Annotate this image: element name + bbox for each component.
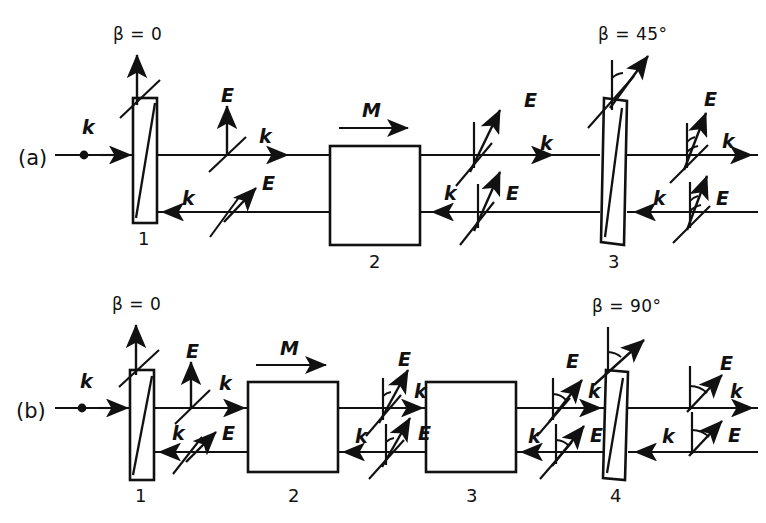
panel-b-M-label: M [280,337,299,359]
panel-b-E-label-2f: E [398,348,411,370]
panel-b-k-label-4f: k [730,380,744,402]
panel-b-E-label-3b: E [590,424,603,446]
panel-a-E-label-3f: E [704,88,717,110]
panel-a-beta-zero-label: β = 0 [113,24,162,44]
panel-b-beta-90-label: β = 90° [592,296,662,316]
panel-a [55,55,758,245]
panel-b-beta-zero-label: β = 0 [112,294,161,314]
panel-b-cluster-1-forward [175,362,210,424]
panel-b-k-label-3b: k [528,425,542,447]
panel-a-label: (a) [18,146,47,170]
panel-a-E-label-3b: E [716,187,729,209]
panel-b-E-label-1f: E [186,340,199,362]
panel-a-k-label-2b: k [444,182,458,204]
panel-a-polarizer-3 [601,98,627,245]
panel-b-cluster-4-backward [689,412,722,456]
panel-b-rotator-3 [426,382,516,472]
panel-a-input-k-label: k [82,116,96,138]
panel-b-E-label-4b: E [728,424,741,446]
panel-a-element-2-number: 2 [369,251,380,272]
panel-b-element-3-number: 3 [466,485,477,506]
panel-b-cluster-4-forward [687,366,722,412]
panel-a-E-label-2f: E [524,89,537,111]
panel-b-input-k-label: k [80,370,94,392]
panel-a-rotator-2 [330,146,420,245]
panel-b-beam-rails [55,408,758,452]
panel-a-cluster-3-backward [673,176,710,243]
panel-b-E-label-2b: E [418,422,431,444]
panel-b-element-1-number: 1 [135,485,146,506]
panel-a-input-dot [80,151,89,160]
panel-a-k-label-3b: k [653,187,667,209]
optical-schematic-svg: (a) k β = 0 β = 45° M 1 2 3 E k E k E k … [0,0,766,523]
panel-a-cluster-3-forward [670,113,708,183]
panel-a-element-1-number: 1 [138,228,149,249]
panel-a-cluster-1-forward [209,106,246,172]
panel-a-k-label-3f: k [722,130,736,152]
panel-b-k-label-2f: k [414,380,428,402]
panel-b-element-2-number: 2 [288,485,299,506]
panel-a-cluster-2-backward [460,172,500,245]
panel-b-polarizer-1 [130,370,154,480]
panel-a-element-3-number: 3 [608,251,619,272]
panel-a-beta-45-label: β = 45° [598,24,668,44]
panel-b-cluster-2-backward [369,418,410,479]
panel-b-E-label-1b: E [222,422,235,444]
panel-a-k-label-1b: k [182,187,196,209]
panel-b-input-dot [78,404,87,413]
panel-a-polarizer-1 [133,98,157,223]
panel-b-k-label-4b: k [662,425,676,447]
panel-b-polarizer-4 [603,370,628,480]
panel-b-k-label-1f: k [219,372,233,394]
panel-b-k-label-2b: k [355,425,369,447]
panel-a-M-label: M [362,99,381,121]
panel-b-k-label-1b: k [172,422,186,444]
panel-b-element-4-number: 4 [610,485,621,506]
panel-b-label: (b) [16,399,46,423]
panel-a-k-label-1f: k [259,125,273,147]
panel-b-rotator-2 [248,382,338,472]
panel-b-E-label-3f: E [566,350,579,372]
panel-b-k-label-3f: k [588,380,602,402]
figure-canvas: (a) k β = 0 β = 45° M 1 2 3 E k E k E k … [0,0,766,523]
panel-a-k-label-2f: k [540,132,554,154]
panel-b-E-label-4f: E [720,352,733,374]
panel-a-cluster-2-forward [456,110,500,186]
panel-a-E-label-2b: E [506,182,519,204]
panel-a-E-label-1f: E [221,84,234,106]
panel-a-E-label-1b: E [262,172,275,194]
